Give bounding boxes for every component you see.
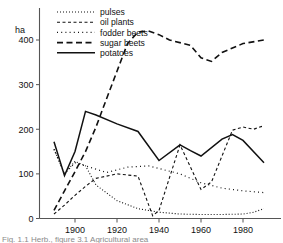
legend-label-sugar-beets: sugar beets bbox=[100, 38, 145, 48]
x-tick-label: 1980 bbox=[233, 225, 253, 235]
x-axis-ticks: 19001920194019601980 bbox=[65, 219, 253, 235]
y-axis-unit-label: ha bbox=[15, 25, 25, 35]
legend-label-pulses: pulses bbox=[100, 7, 125, 17]
figure-caption: Fig. 1.1 Herb., figure 3.1 Agricultural … bbox=[0, 237, 283, 243]
y-axis-ticks: 0100200300400 bbox=[18, 35, 39, 224]
legend-label-fodder-beets: fodder beets bbox=[100, 28, 148, 38]
y-tick-label: 300 bbox=[18, 80, 33, 90]
legend-label-potatoes: potatoes bbox=[100, 48, 133, 58]
y-tick-label: 0 bbox=[28, 214, 33, 224]
chart-legend: pulsesoil plantsfodder beetssugar beetsp… bbox=[57, 7, 148, 58]
x-tick-label: 1940 bbox=[149, 225, 169, 235]
y-tick-label: 400 bbox=[18, 35, 33, 45]
series-line-sugar-beets bbox=[54, 31, 264, 210]
x-tick-label: 1920 bbox=[107, 225, 127, 235]
figure-caption-text: Fig. 1.1 Herb., figure 3.1 Agricultural … bbox=[2, 237, 148, 243]
y-tick-label: 100 bbox=[18, 169, 33, 179]
chart-container: ha 0100200300400 19001920194019601980 pu… bbox=[0, 0, 283, 243]
line-chart: ha 0100200300400 19001920194019601980 pu… bbox=[0, 0, 283, 243]
y-tick-label: 200 bbox=[18, 125, 33, 135]
x-tick-label: 1900 bbox=[65, 225, 85, 235]
series-line-oil-plants bbox=[54, 126, 264, 216]
x-tick-label: 1960 bbox=[191, 225, 211, 235]
series-group bbox=[54, 31, 264, 216]
legend-label-oil-plants: oil plants bbox=[100, 17, 134, 27]
series-line-fodder-beets bbox=[54, 149, 264, 192]
series-line-pulses bbox=[54, 149, 264, 214]
